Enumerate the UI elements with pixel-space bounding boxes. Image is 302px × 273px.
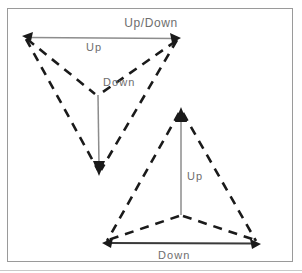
upper-up-arrow-shaft [28,38,175,39]
upper-down-arrow-shaft [98,95,99,165]
upper-up-label: Up [86,41,102,53]
lower-up-label: Up [187,170,203,182]
up-down-diagram: Up/Down Up Down [0,0,302,273]
figure-title: Up/Down [124,16,178,30]
figure-frame [8,9,293,262]
lower-down-arrow-shaft [108,243,255,244]
upper-down-label: Down [103,76,136,88]
figure-root: Up/Down Up Down [0,0,302,273]
lower-down-label: Down [158,249,191,261]
